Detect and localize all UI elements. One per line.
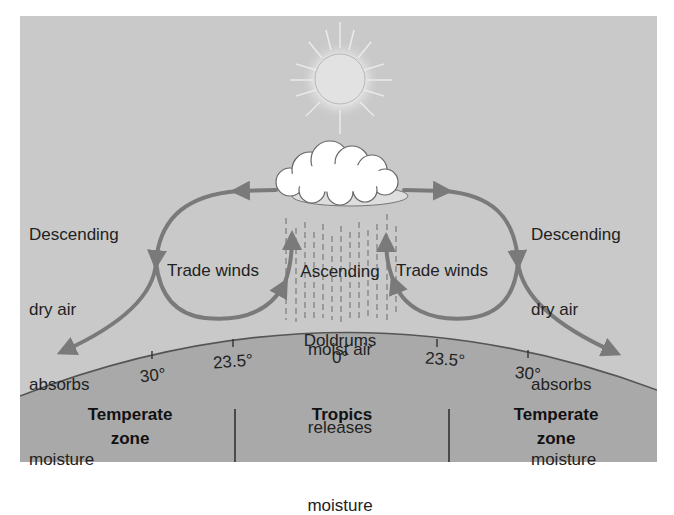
latitude-right-30: 30°: [514, 363, 542, 386]
label-line: absorbs: [531, 372, 621, 397]
latitude-right-23-5: 23.5°: [424, 349, 465, 372]
arrow-outflow-right: [404, 190, 445, 191]
label-line: Descending: [531, 222, 621, 247]
latitude-left-23-5: 23.5°: [212, 351, 253, 374]
latitude-left-30: 30°: [139, 365, 167, 388]
label-line: dry air: [29, 297, 119, 322]
zone-tropics: Tropics: [282, 403, 402, 427]
label-line: absorbs: [29, 372, 119, 397]
zone-right-temperate: Temperate zone: [496, 403, 616, 451]
label-line: Ascending: [280, 259, 400, 285]
label-line: Descending: [29, 222, 119, 247]
latitude-equator: 0°: [332, 348, 348, 368]
zone-left-temperate: Temperate zone: [70, 403, 190, 451]
label-line: dry air: [531, 297, 621, 322]
label-trade-winds-right: Trade winds: [396, 258, 488, 283]
arrow-outflow-left: [238, 190, 276, 191]
label-trade-winds-left: Trade winds: [167, 258, 259, 283]
label-line: moisture: [280, 493, 400, 515]
